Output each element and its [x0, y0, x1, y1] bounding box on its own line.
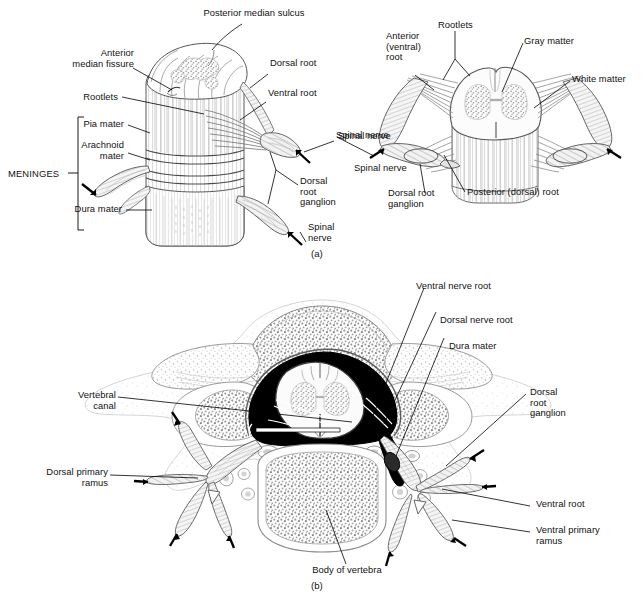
label-rootlets-left: Rootlets [44, 92, 118, 103]
label-dura-mater-b: Dura mater [449, 341, 496, 352]
label-vertebral-canal: Vertebral canal [34, 390, 116, 411]
label-pia-mater: Pia mater [56, 119, 124, 130]
label-anterior-ventral-root: Anterior (ventral) root [386, 31, 421, 63]
label-ventral-primary-ramus: Ventral primary ramus [536, 525, 600, 546]
label-dorsal-nerve-root: Dorsal nerve root [440, 315, 513, 326]
panel-tag-a: (a) [311, 248, 323, 259]
label-white-matter: White matter [572, 74, 626, 85]
label-spinal-nerve-a-right-top: Spinal nerve [338, 131, 391, 142]
label-spinal-nerve-a-left-lower: Spinal nerve [308, 222, 334, 243]
panel-tag-b: (b) [311, 580, 323, 591]
label-dorsal-root-ganglion-a-right: Dorsal root ganglion [388, 188, 434, 209]
label-arachnoid-mater: Arachnoid mater [52, 140, 124, 161]
panel-b-vertebra-cross-section [85, 288, 551, 566]
label-posterior-median-sulcus: Posterior median sulcus [184, 8, 324, 19]
label-ventral-root-b: Ventral root [536, 499, 585, 510]
label-dorsal-root-ganglion-b: Dorsal root ganglion [530, 387, 566, 419]
label-gray-matter: Gray matter [524, 36, 574, 47]
label-posterior-dorsal-root: Posterior (dorsal) root [467, 187, 559, 198]
label-ventral-nerve-root: Ventral nerve root [416, 281, 491, 292]
label-spinal-nerve-a-right-bottom: Spinal nerve [354, 163, 407, 174]
label-dura-mater-a: Dura mater [50, 204, 122, 215]
label-rootlets-right: Rootlets [438, 20, 473, 31]
label-dorsal-root: Dorsal root [270, 58, 316, 69]
panel-a-right-transverse-cord [337, 31, 621, 203]
label-dorsal-primary-ramus: Dorsal primary ramus [14, 467, 108, 488]
label-ventral-root: Ventral root [268, 88, 317, 99]
label-meninges: MENINGES [8, 168, 59, 179]
label-dorsal-root-ganglion-a-left: Dorsal root ganglion [300, 176, 336, 208]
figure-root: Posterior median sulcus Anterior median … [0, 0, 643, 598]
label-anterior-median-fissure: Anterior median fissure [24, 48, 134, 69]
label-body-of-vertebra: Body of vertebra [292, 565, 402, 576]
